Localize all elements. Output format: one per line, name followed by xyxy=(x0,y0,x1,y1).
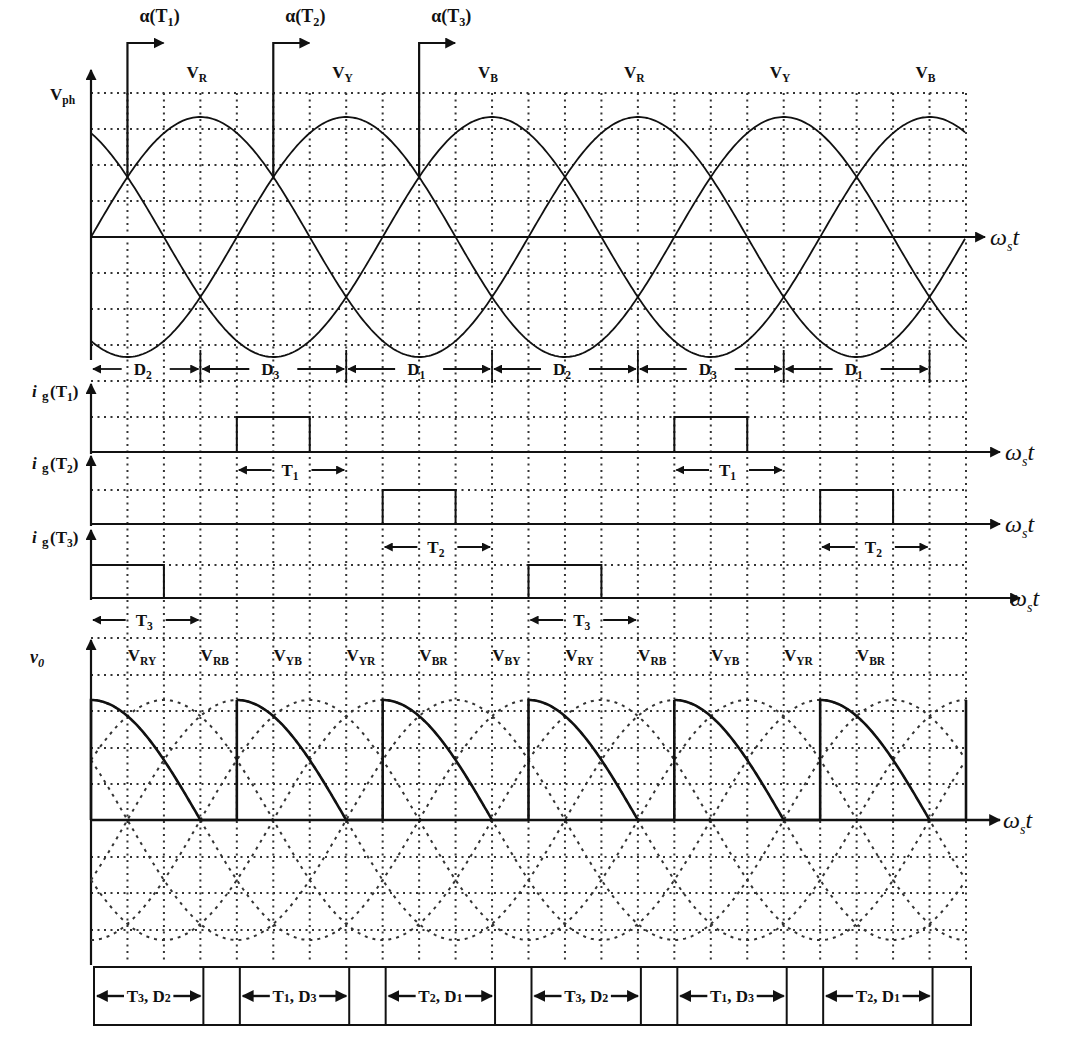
conduction-label: T1, D3 xyxy=(710,987,754,1006)
gate-current-panels xyxy=(91,384,1020,620)
gate-current-label: i xyxy=(32,528,37,547)
gate-current-label: i xyxy=(32,454,37,473)
omega-t-label: ωst xyxy=(1003,807,1033,837)
gate-pulse xyxy=(383,490,456,524)
gate-pulse xyxy=(674,417,747,452)
thyristor-interval-label: T2 xyxy=(427,538,444,560)
output-voltage-panel xyxy=(91,640,1000,965)
firing-angle-label: α(T3) xyxy=(431,6,471,29)
line-voltage-label: VBR xyxy=(857,646,886,668)
conduction-label: T1, D3 xyxy=(272,987,316,1006)
thyristor-interval-label: T1 xyxy=(719,461,736,483)
thyristor-interval-label: T3 xyxy=(573,611,590,633)
phase-label: VR xyxy=(624,63,645,85)
line-voltage-label: VRY xyxy=(128,646,157,668)
gate-pulse xyxy=(237,417,310,452)
diode-label: D3 xyxy=(261,360,279,382)
diode-label: D1 xyxy=(407,360,425,382)
firing-angle-marker xyxy=(127,43,163,177)
conduction-label: T2, D1 xyxy=(856,987,900,1006)
conduction-table xyxy=(94,967,971,1025)
phase-label: VB xyxy=(916,63,936,85)
vo-label: v0 xyxy=(30,647,44,670)
thyristor-interval-label: T1 xyxy=(282,461,299,483)
phase-label: VB xyxy=(478,63,498,85)
thyristor-interval-label: T3 xyxy=(136,611,153,633)
phase-label: VY xyxy=(770,63,791,85)
diode-label: D2 xyxy=(134,360,152,382)
line-voltage-label: VYB xyxy=(711,646,740,668)
line-voltage-label: VRB xyxy=(638,646,667,668)
gate-subscript: g xyxy=(42,534,49,549)
gate-subscript: g xyxy=(42,388,49,403)
firing-angle-label: α(T1) xyxy=(139,6,179,29)
conduction-label: T3, D2 xyxy=(564,987,608,1006)
omega-t-label: ωst xyxy=(1005,439,1035,469)
line-voltage-label: VYR xyxy=(346,646,376,668)
vph-label: Vph xyxy=(50,85,76,107)
gate-label: (T1) xyxy=(50,382,78,404)
omega-t-label: ωst xyxy=(1010,585,1040,615)
thyristor-interval-label: T2 xyxy=(865,538,882,560)
phase-label: VR xyxy=(186,63,207,85)
omega-t-label: ωst xyxy=(990,224,1020,254)
text-labels: α(T1)α(T2)α(T3)VRVYVBVRVYVBVphD2D3D1D2D3… xyxy=(30,6,1040,1006)
line-voltage-label: VRY xyxy=(565,646,594,668)
line-voltage-label: VRB xyxy=(201,646,230,668)
diode-label: D2 xyxy=(553,360,571,382)
line-voltage-label: VBY xyxy=(492,646,521,668)
conduction-label: T3, D2 xyxy=(127,987,171,1006)
dotted-grid xyxy=(91,93,966,962)
gate-current-label: i xyxy=(32,382,37,401)
line-voltage-label: VBR xyxy=(419,646,448,668)
gate-label: (T2) xyxy=(50,454,78,476)
waveform-diagram: α(T1)α(T2)α(T3)VRVYVBVRVYVBVphD2D3D1D2D3… xyxy=(0,0,1066,1057)
line-voltage-label: VYR xyxy=(784,646,814,668)
conduction-label: T2, D1 xyxy=(418,987,462,1006)
omega-t-label: ωst xyxy=(1005,511,1035,541)
output-voltage-wave xyxy=(91,700,966,820)
gate-pulse xyxy=(820,490,893,524)
line-voltage-label: VYB xyxy=(274,646,303,668)
phase-voltage-panel xyxy=(91,43,985,383)
firing-angle-marker xyxy=(273,43,309,177)
diode-label: D1 xyxy=(845,360,863,382)
gate-label: (T3) xyxy=(50,528,78,550)
firing-angle-marker xyxy=(419,43,455,177)
diode-label: D3 xyxy=(699,360,717,382)
phase-label: VY xyxy=(332,63,353,85)
firing-angle-label: α(T2) xyxy=(285,6,325,29)
gate-subscript: g xyxy=(42,460,49,475)
